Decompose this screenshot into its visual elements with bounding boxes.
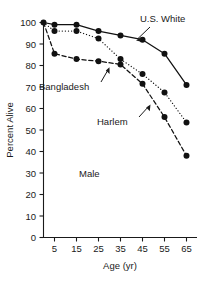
annotation-label-harlem: Harlem xyxy=(97,116,128,127)
x-tick-label: 25 xyxy=(93,243,104,254)
annotation-label-male: Male xyxy=(79,168,100,179)
y-tick-label: 30 xyxy=(25,168,36,179)
data-point xyxy=(140,71,146,77)
x-tick-label: 15 xyxy=(71,243,82,254)
y-tick-label: 90 xyxy=(25,39,36,50)
chart-canvas: 0 10 20 30 40 50 60 70 80 90 100 5 15 25 xyxy=(0,0,206,284)
data-point xyxy=(184,153,190,159)
x-tick-label: 65 xyxy=(181,243,192,254)
y-tick-label: 100 xyxy=(20,17,36,28)
annotation-bangladesh: Bangladesh xyxy=(39,67,110,92)
data-point xyxy=(184,120,190,126)
y-axis-title: Percent Alive xyxy=(4,102,15,157)
data-point xyxy=(96,28,102,34)
data-point xyxy=(140,81,146,87)
data-point xyxy=(96,36,102,42)
y-axis-ticks xyxy=(40,23,44,238)
x-tick-label: 55 xyxy=(159,243,170,254)
y-tick-label: 80 xyxy=(25,60,36,71)
axis-lines xyxy=(44,21,198,238)
data-point xyxy=(52,51,58,57)
x-tick-label: 35 xyxy=(115,243,126,254)
data-point xyxy=(162,114,168,120)
data-point xyxy=(118,61,124,67)
data-point xyxy=(52,22,58,28)
y-tick-label: 50 xyxy=(25,125,36,136)
survival-curve-chart: 0 10 20 30 40 50 60 70 80 90 100 5 15 25 xyxy=(0,0,206,284)
data-point xyxy=(74,28,80,34)
annotation-label-bangladesh: Bangladesh xyxy=(39,81,89,92)
data-point xyxy=(96,58,102,64)
data-point xyxy=(162,89,168,95)
series-us-white xyxy=(41,20,190,88)
y-tick-label: 70 xyxy=(25,82,36,93)
y-tick-label: 60 xyxy=(25,103,36,114)
series-bangladesh xyxy=(44,23,190,126)
data-point xyxy=(162,51,168,57)
data-point xyxy=(74,56,80,62)
y-tick-label: 0 xyxy=(31,232,36,243)
x-axis-title: Age (yr) xyxy=(103,260,137,271)
annotation-label-us-white: U.S. White xyxy=(140,13,185,24)
x-tick-label: 5 xyxy=(52,243,57,254)
x-axis-tick-labels: 5 15 25 35 45 55 65 xyxy=(52,243,192,254)
data-point xyxy=(74,22,80,28)
y-tick-label: 40 xyxy=(25,146,36,157)
x-axis-ticks xyxy=(55,238,187,242)
series-line-bangladesh xyxy=(44,23,187,123)
data-point xyxy=(118,32,124,38)
data-point xyxy=(52,28,58,34)
data-point xyxy=(118,56,124,62)
annotation-harlem: Harlem xyxy=(97,105,151,128)
data-point xyxy=(184,82,190,88)
x-tick-label: 45 xyxy=(137,243,148,254)
y-axis-tick-labels: 0 10 20 30 40 50 60 70 80 90 100 xyxy=(20,17,36,243)
y-tick-label: 10 xyxy=(25,211,36,222)
y-tick-label: 20 xyxy=(25,189,36,200)
